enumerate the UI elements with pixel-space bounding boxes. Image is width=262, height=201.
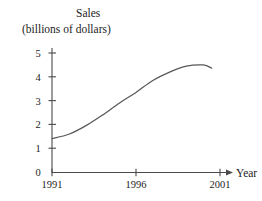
y-tick-label-3: 3 [35, 96, 40, 107]
x-tick-label-1996: 1996 [126, 179, 147, 190]
x-axis-arrow-icon [226, 169, 233, 175]
chart-canvas: Sales (billions of dollars) 5 4 3 2 1 0 … [0, 0, 262, 201]
y-tick-label-4: 4 [35, 72, 41, 83]
y-tick-label-1: 1 [35, 143, 40, 154]
y-tick-label-2: 2 [35, 119, 40, 130]
sales-line-chart-figure: Sales (billions of dollars) 5 4 3 2 1 0 … [0, 0, 262, 201]
y-tick-label-0: 0 [35, 167, 40, 178]
y-tick-label-5: 5 [35, 48, 40, 59]
sales-data-curve [52, 65, 212, 139]
x-tick-label-2001: 2001 [210, 179, 231, 190]
x-axis-name-label: Year [236, 167, 257, 179]
x-tick-label-1991: 1991 [42, 179, 63, 190]
chart-title: Sales [76, 7, 101, 19]
chart-subtitle: (billions of dollars) [22, 23, 111, 36]
